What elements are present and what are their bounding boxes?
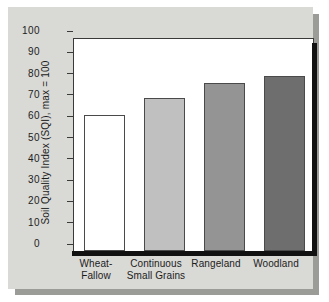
y-axis-tick-label: 30 (28, 175, 40, 185)
y-axis-tick (67, 158, 73, 159)
y-axis-tick (67, 180, 73, 181)
x-axis-label-line1: Woodland (240, 258, 312, 270)
x-axis-category-label: Woodland (240, 258, 312, 270)
y-axis-tick (67, 94, 73, 95)
y-axis-tick-label: 90 (28, 47, 40, 57)
y-axis-tick-label: 40 (28, 154, 40, 164)
y-axis-tick (67, 116, 73, 117)
y-axis-tick (67, 73, 73, 74)
plot-right-edge (312, 43, 317, 253)
y-axis-tick (67, 222, 73, 223)
bar-woodland (264, 76, 305, 251)
y-axis-tick-label: 70 (28, 90, 40, 100)
figure-card: Soil Quality Index (SQI), max = 100 1009… (8, 7, 313, 289)
y-axis-tick (67, 137, 73, 138)
bar-rangeland (204, 83, 245, 251)
plot-area (74, 38, 314, 251)
bar-wheat-fallow (84, 115, 125, 251)
y-axis-tick (67, 244, 73, 245)
y-axis-tick-label: 10 (28, 218, 40, 228)
x-axis-baseline (72, 251, 317, 256)
y-axis-tick-label: 60 (28, 111, 40, 121)
y-axis-line (73, 38, 74, 252)
y-axis-tick-label: 50 (28, 133, 40, 143)
y-axis-title: Soil Quality Index (SQI), max = 100 (40, 43, 51, 243)
y-axis-tick (67, 52, 73, 53)
x-axis-label-line2: Small Grains (120, 270, 192, 282)
figure-root: Soil Quality Index (SQI), max = 100 1009… (0, 0, 329, 302)
bar-continuous-small-grains (144, 98, 185, 251)
y-axis-tick-label: 20 (28, 196, 40, 206)
y-axis-tick-label: 80 (28, 69, 40, 79)
card-shadow-bottom (15, 289, 319, 295)
y-axis-tick-label: 100 (22, 26, 40, 36)
y-axis-tick-label: 0 (34, 239, 40, 249)
y-axis-tick (67, 201, 73, 202)
y-axis-tick (67, 31, 73, 32)
